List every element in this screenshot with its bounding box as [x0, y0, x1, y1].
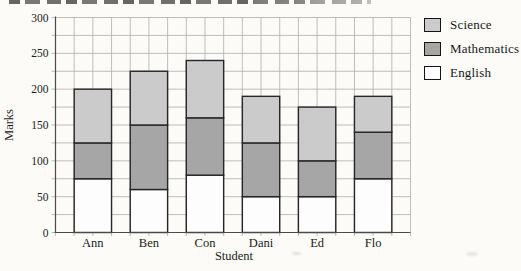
y-axis-title: Marks — [2, 109, 16, 141]
scanned-chart-page: AnnBenConDaniEdFlo050100150200250300Stud… — [0, 0, 521, 271]
mathematics-swatch — [424, 42, 441, 56]
bar-segment-con-science — [186, 61, 223, 118]
y-tick-label-200: 200 — [31, 83, 49, 95]
bar-segment-ed-english — [298, 197, 335, 233]
legend-label: Science — [450, 17, 492, 33]
y-tick-label-100: 100 — [31, 155, 49, 167]
x-tick-label-con: Con — [195, 236, 217, 250]
y-tick-label-150: 150 — [31, 119, 49, 131]
bar-segment-ann-mathematics — [74, 143, 111, 179]
legend-item-science: Science — [424, 13, 519, 37]
scan-smudge — [466, 252, 478, 256]
scan-smudge — [292, 252, 301, 255]
bar-segment-flo-english — [354, 179, 391, 233]
x-axis-title: Student — [215, 249, 254, 263]
bar-segment-dani-mathematics — [242, 143, 279, 197]
y-tick-label-300: 300 — [31, 12, 49, 24]
bar-segment-dani-science — [242, 96, 279, 143]
bar-segment-ann-science — [74, 89, 111, 143]
bar-segment-ann-english — [74, 179, 111, 233]
bars — [74, 61, 392, 233]
y-tick-label-250: 250 — [31, 47, 49, 59]
legend: Science Mathematics English — [424, 13, 519, 85]
bar-segment-flo-science — [354, 96, 391, 132]
bar-segment-con-mathematics — [186, 118, 223, 175]
legend-label: English — [450, 65, 491, 81]
bar-segment-flo-mathematics — [354, 132, 391, 179]
bar-segment-con-english — [186, 175, 223, 232]
legend-item-mathematics: Mathematics — [424, 37, 519, 61]
bar-segment-ed-science — [298, 107, 335, 161]
legend-item-english: English — [424, 61, 519, 85]
bar-segment-ben-science — [130, 71, 167, 125]
y-tick-label-0: 0 — [43, 227, 49, 239]
x-tick-label-ed: Ed — [310, 236, 325, 250]
bar-segment-ed-mathematics — [298, 161, 335, 197]
x-tick-label-flo: Flo — [365, 236, 382, 250]
bar-segment-ben-english — [130, 190, 167, 233]
english-swatch — [424, 66, 441, 80]
science-swatch — [424, 18, 441, 32]
legend-label: Mathematics — [450, 41, 519, 57]
y-tick-label-50: 50 — [37, 191, 49, 203]
x-tick-label-ben: Ben — [139, 236, 160, 250]
bar-segment-dani-english — [242, 197, 279, 233]
bar-segment-ben-mathematics — [130, 125, 167, 190]
x-tick-label-ann: Ann — [82, 236, 104, 250]
